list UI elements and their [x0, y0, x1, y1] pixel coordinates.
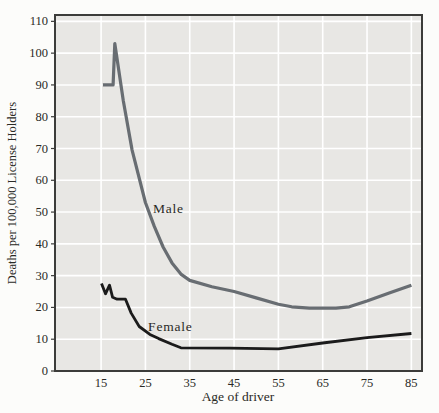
line-chart: 1525354555657585010203040506070809010011…	[0, 0, 439, 413]
x-axis-title: Age of driver	[202, 389, 275, 404]
female-series-label: Female	[148, 319, 193, 334]
y-tick-label: 0	[42, 364, 48, 378]
x-tick-label: 65	[316, 376, 329, 390]
y-tick-label: 20	[36, 300, 49, 314]
y-tick-label: 90	[36, 78, 49, 92]
y-tick-label: 60	[36, 173, 49, 187]
y-tick-label: 50	[36, 205, 49, 219]
y-tick-label: 10	[36, 332, 49, 346]
x-tick-label: 25	[139, 376, 152, 390]
y-tick-label: 110	[30, 14, 48, 28]
y-tick-label: 70	[36, 142, 49, 156]
y-tick-label: 30	[36, 269, 49, 283]
y-tick-label: 40	[36, 237, 49, 251]
male-series-label: Male	[153, 201, 184, 216]
x-tick-label: 85	[405, 376, 418, 390]
y-tick-label: 80	[36, 110, 49, 124]
x-tick-label: 75	[361, 376, 374, 390]
x-tick-label: 55	[272, 376, 285, 390]
x-tick-label: 35	[183, 376, 196, 390]
y-axis-title: Deaths per 100,000 License Holders	[5, 102, 19, 284]
death-rate-chart-figure: 1525354555657585010203040506070809010011…	[0, 0, 439, 413]
x-tick-label: 45	[228, 376, 241, 390]
y-tick-label: 100	[29, 46, 48, 60]
x-tick-label: 15	[95, 376, 108, 390]
